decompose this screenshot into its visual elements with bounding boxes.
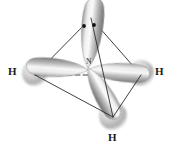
hydrogen-label-left: H — [8, 66, 17, 77]
hydrogen-label-right: H — [155, 66, 164, 77]
hydrogen-label-bottom: H — [108, 132, 117, 143]
molecule-diagram-canvas: N — [0, 0, 173, 150]
central-atom-label: N — [86, 57, 92, 66]
lone-pair-dot — [92, 23, 96, 27]
lone-pair-dot — [82, 24, 86, 28]
molecular-orbital-figure: N H H H — [0, 0, 173, 150]
